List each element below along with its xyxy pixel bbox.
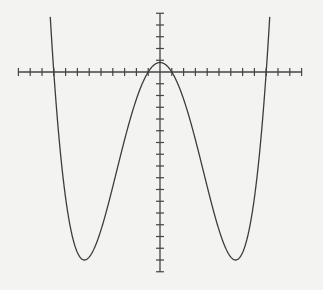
graph-canvas [0, 0, 323, 290]
y-axis [156, 13, 164, 272]
function-graph: y = 0.01 (x^2 - 1)(x^2 - 81) [0, 0, 323, 290]
